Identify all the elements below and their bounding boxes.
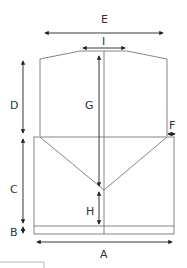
label-c: C	[10, 183, 18, 196]
corner-box-fragment	[0, 262, 44, 268]
dimension-arrows	[23, 33, 175, 242]
dimension-diagram: E I D G F C H B A	[0, 0, 187, 268]
label-i: I	[102, 35, 105, 48]
label-e: E	[101, 13, 108, 26]
label-g: G	[85, 99, 94, 112]
label-f: F	[169, 119, 175, 132]
label-d: D	[10, 99, 18, 112]
v-fold-lines	[40, 137, 167, 190]
label-h: H	[86, 205, 94, 218]
label-b: B	[10, 226, 18, 239]
label-a: A	[100, 248, 108, 261]
upper-panel-outline	[40, 51, 167, 136]
